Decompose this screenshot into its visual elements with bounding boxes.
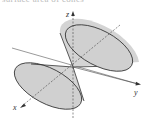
x-axis-label: x — [12, 103, 17, 112]
z-axis-label: z — [65, 10, 70, 19]
z-axis-arrow-icon — [71, 11, 75, 16]
x-axis-arrow-icon — [20, 104, 26, 109]
double-cone-diagram: z y x — [0, 0, 146, 123]
y-axis-arrow-icon — [136, 82, 142, 86]
y-axis-label: y — [133, 88, 138, 97]
